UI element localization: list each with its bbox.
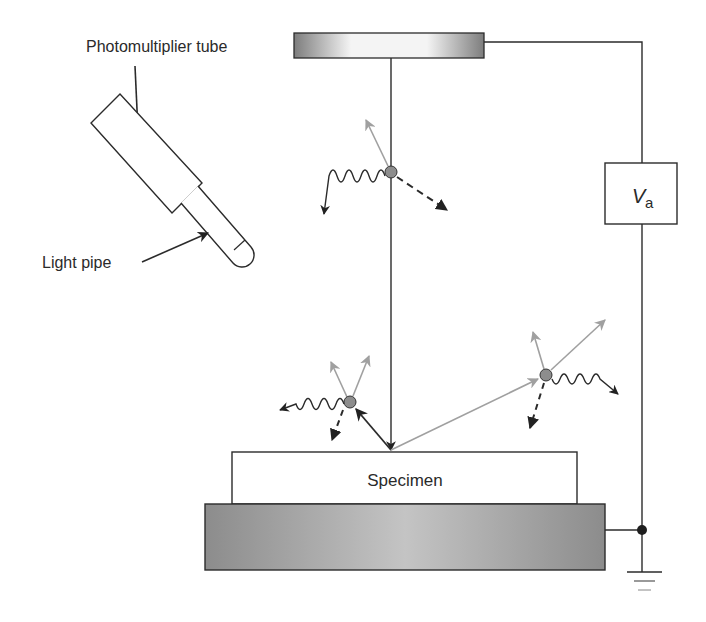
top-electrode-bar [294,33,484,58]
junction-node [637,525,647,535]
upper-dashed-arrow [397,177,447,210]
voltage-subscript: a [645,194,654,211]
backscatter-electron-arrow [356,409,391,450]
specimen-label: Specimen [367,471,443,490]
scintillator-detector-body [91,94,202,213]
right-gray-arrow-1 [533,332,544,369]
sem-detector-diagram: Photomultiplier tube Light pipe V a Spec… [0,0,706,622]
photomultiplier-label: Photomultiplier tube [86,38,228,55]
light-pipe [181,186,254,267]
upper-gray-electron-arrow [366,120,388,166]
left-photon-wave [280,399,344,411]
upper-scatter-particle [385,166,397,178]
right-gray-arrow-2 [551,320,605,370]
light-pipe-label: Light pipe [42,254,111,271]
reflected-gray-beam [391,379,538,450]
specimen-stage [205,504,605,570]
left-gray-arrow-1 [331,362,347,397]
left-scatter-particle [344,396,356,408]
right-dashed-arrow [530,383,544,428]
upper-photon-wave [324,170,385,214]
left-dashed-arrow [332,410,343,440]
left-gray-arrow-2 [353,356,369,396]
right-scatter-particle [540,369,552,381]
circuit-wire [484,42,642,163]
light-pipe-pointer-arrow [142,233,208,262]
right-photon-wave [552,374,618,394]
